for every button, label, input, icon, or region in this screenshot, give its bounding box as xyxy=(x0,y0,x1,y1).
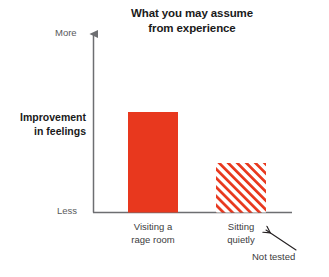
x-axis-category-label-0-line-1: Visiting a xyxy=(134,221,172,232)
x-axis-category-label-0-line-2: rage room xyxy=(108,233,198,246)
annotation-not-tested: Not tested xyxy=(252,251,295,262)
bar-visiting-a-rage-room xyxy=(128,112,178,213)
x-axis-category-label-0: Visiting a rage room xyxy=(108,220,198,247)
chart-container: What you may assume from experience Impr… xyxy=(0,0,329,277)
x-axis-category-label-1-line-1: Sitting xyxy=(228,221,254,232)
bar-sitting-quietly xyxy=(216,163,266,213)
x-axis-category-label-1-line-2: quietly xyxy=(205,233,277,246)
x-axis-category-label-1: Sitting quietly xyxy=(205,220,277,247)
